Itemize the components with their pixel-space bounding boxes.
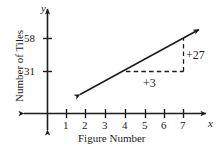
x-tick-label-6: 6	[161, 120, 167, 131]
x-tick-label-7: 7	[180, 120, 186, 131]
tile-growth-graph-figure: y x 58 31 1 2 3 4 5 6 7 Number of Tiles …	[0, 0, 221, 157]
rise-annotation-label: +27	[186, 49, 205, 61]
y-axis-title: Number of Tiles	[14, 30, 25, 102]
x-tick-label-2: 2	[82, 120, 88, 131]
y-axis-variable-label: y	[41, 3, 46, 14]
x-axis-variable-label: x	[208, 118, 213, 129]
data-line	[80, 30, 199, 95]
x-tick-label-4: 4	[122, 120, 128, 131]
x-axis-title: Figure Number	[78, 133, 146, 144]
x-tick-label-3: 3	[102, 120, 108, 131]
x-tick-label-1: 1	[63, 120, 69, 131]
y-tick-label-31: 31	[24, 66, 35, 77]
y-tick-label-58: 58	[24, 33, 35, 44]
x-tick-label-5: 5	[142, 120, 148, 131]
run-annotation-label: +3	[143, 77, 156, 89]
